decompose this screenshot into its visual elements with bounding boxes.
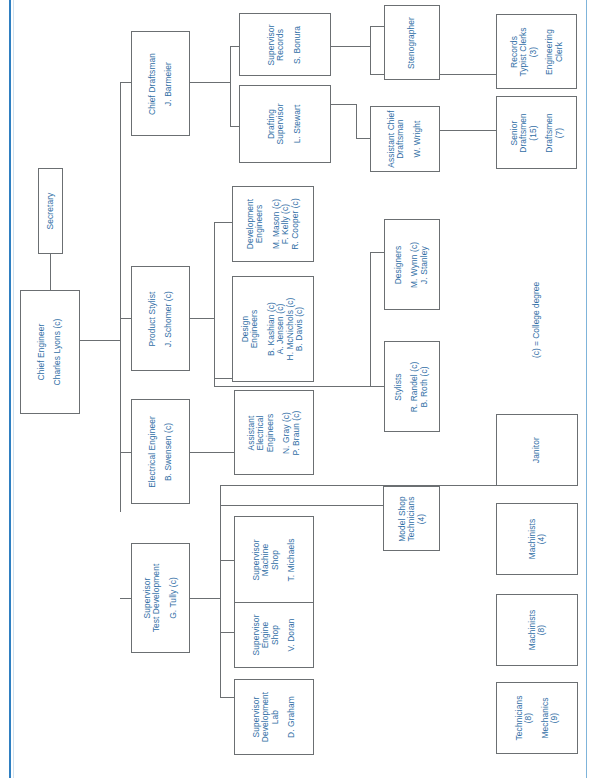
- node-chief-engineer-text: Chief Engineer Charles Lyons (c): [37, 318, 63, 385]
- node-chief-engineer[interactable]: Chief Engineer Charles Lyons (c): [20, 290, 80, 414]
- connector-td-development-lab: [220, 697, 234, 698]
- node-designers-text: Designers M. Wynn (c)J. Stanley: [394, 241, 429, 287]
- node-design-engineers-text: DesignEngineers B. Kashian (c)A. Jensen …: [241, 297, 304, 360]
- spine-product-stylist-right: [214, 378, 215, 386]
- node-designers[interactable]: Designers M. Wynn (c)J. Stanley: [384, 219, 440, 310]
- node-assistant-chief-draftsman[interactable]: Assistant ChiefDraftsman W. Wright: [370, 106, 440, 172]
- connector-electrical-engineer-out: [190, 452, 234, 453]
- node-designers-title: Designers: [394, 241, 403, 287]
- node-supervisor-development-lab[interactable]: SupervisorDevelopmentLab D. Graham: [234, 679, 314, 755]
- node-supervisor-development-lab-text: SupervisorDevelopmentLab D. Graham: [252, 692, 297, 742]
- connector-ps-design-engineers: [214, 378, 232, 379]
- node-supervisor-records[interactable]: SupervisorRecords S. Bonura: [239, 13, 331, 76]
- node-product-stylist-text: Product Stylist J. Schomer (c): [148, 291, 174, 347]
- node-electrical-engineer[interactable]: Electrical Engineer B. Swensen (c): [131, 399, 190, 504]
- node-machinists-4-title: Machinists(4): [528, 519, 547, 560]
- node-supervisor-machine-shop-title: SupervisorMachineShop: [252, 539, 280, 582]
- spine-product-stylist-left: [214, 222, 215, 378]
- node-supervisor-test-development-text: SupervisorTest Development G. Tully (c): [143, 564, 178, 633]
- connector-product-stylist-out-left: [190, 318, 214, 319]
- spine-drafting-supervisor: [356, 104, 357, 138]
- connector-ds-senior-draftsmen: [440, 130, 496, 131]
- node-records-typist-clerks-text: RecordsTypist Clerks(3) EngineeringClerk: [509, 27, 563, 76]
- node-machinists-4[interactable]: Machinists(4): [496, 503, 578, 575]
- node-supervisor-engine-shop-text: SupervisorEngineShop V. Doran: [252, 614, 297, 655]
- node-assistant-electrical-engineers-title: AssistantElectricalEngineers: [247, 410, 275, 455]
- node-machinists-8[interactable]: Machinists(8): [496, 594, 578, 666]
- node-development-engineers-people: M. Mason (c)F. Kelly (c)R. Cooper (c): [272, 198, 300, 250]
- connector-ps-stylists: [370, 386, 384, 387]
- node-product-stylist-title: Product Stylist: [148, 291, 157, 347]
- node-stylists-people: R. Randel (c)B. Roth (c): [411, 361, 430, 412]
- connector-chief-engineer-secretary: [50, 254, 51, 290]
- node-model-shop-technicians-text: Model ShopTechnicians(4): [397, 496, 425, 542]
- node-supervisor-machine-shop-people: T. Michaels: [287, 539, 296, 582]
- node-supervisor-records-text: SupervisorRecords S. Bonura: [267, 24, 302, 65]
- node-senior-draftsmen-people: Draftsmen(7): [545, 113, 564, 153]
- node-assistant-chief-draftsman-people: W. Wright: [413, 110, 422, 167]
- node-supervisor-test-development-title: SupervisorTest Development: [143, 564, 162, 633]
- node-supervisor-engine-shop[interactable]: SupervisorEngineShop V. Doran: [234, 602, 314, 668]
- node-model-shop-technicians[interactable]: Model ShopTechnicians(4): [383, 486, 440, 551]
- node-records-typist-clerks-people: EngineeringClerk: [545, 27, 564, 76]
- node-electrical-engineer-title: Electrical Engineer: [148, 416, 157, 488]
- node-janitor-text: Janitor: [532, 437, 541, 463]
- node-chief-draftsman-title: Chief Draftsman: [148, 52, 157, 114]
- node-electrical-engineer-people: B. Swensen (c): [164, 416, 173, 488]
- connector-supervisor-records-out: [330, 46, 370, 47]
- connector-td-model-shop: [220, 505, 383, 506]
- node-machinists-8-text: Machinists(8): [528, 610, 547, 651]
- node-supervisor-machine-shop[interactable]: SupervisorMachineShop T. Michaels: [234, 516, 314, 604]
- node-assistant-electrical-engineers-people: N. Gray (c)P. Braun (c): [282, 410, 301, 455]
- node-model-shop-technicians-title: Model ShopTechnicians(4): [397, 496, 425, 542]
- node-development-engineers[interactable]: DevelopmentEngineers M. Mason (c)F. Kell…: [232, 186, 314, 262]
- node-supervisor-records-title: SupervisorRecords: [267, 24, 286, 65]
- node-designers-people: M. Wynn (c)J. Stanley: [411, 241, 430, 287]
- node-technicians-mechanics[interactable]: Technicians(8) Mechanics(9): [496, 682, 578, 754]
- node-stenographer[interactable]: Stenographer: [384, 5, 440, 80]
- node-drafting-supervisor[interactable]: DraftingSupervisor L. Stewart: [239, 85, 331, 163]
- node-stylists[interactable]: Stylists R. Randel (c)B. Roth (c): [384, 341, 440, 432]
- connector-td-machine-shop: [220, 560, 234, 561]
- node-supervisor-test-development[interactable]: SupervisorTest Development G. Tully (c): [131, 543, 190, 653]
- node-secretary[interactable]: Secretary: [38, 168, 63, 254]
- node-supervisor-records-people: S. Bonura: [293, 24, 302, 65]
- spine-chief-engineer: [120, 82, 121, 512]
- node-senior-draftsmen[interactable]: SeniorDraftsmen(15) Draftsmen(7): [496, 96, 577, 169]
- connector-td-engine-shop: [220, 632, 234, 633]
- node-assistant-chief-draftsman-title: Assistant ChiefDraftsman: [387, 110, 406, 167]
- node-assistant-electrical-engineers-text: AssistantElectricalEngineers N. Gray (c)…: [247, 410, 301, 455]
- node-janitor-title: Janitor: [532, 437, 541, 463]
- node-development-engineers-title: DevelopmentEngineers: [246, 198, 265, 250]
- spine-supervisor-records: [370, 26, 371, 74]
- node-stenographer-title: Stenographer: [407, 17, 416, 69]
- node-development-engineers-text: DevelopmentEngineers M. Mason (c)F. Kell…: [246, 198, 300, 250]
- node-electrical-engineer-text: Electrical Engineer B. Swensen (c): [148, 416, 174, 488]
- node-supervisor-development-lab-people: D. Graham: [287, 692, 296, 742]
- node-stylists-text: Stylists R. Randel (c)B. Roth (c): [394, 361, 429, 412]
- node-chief-draftsman[interactable]: Chief Draftsman J. Barmeier: [131, 31, 190, 136]
- node-design-engineers-people: B. Kashian (c)A. Jensen (c)H. McNichols …: [267, 297, 305, 360]
- node-assistant-electrical-engineers[interactable]: AssistantElectricalEngineers N. Gray (c)…: [234, 390, 314, 475]
- node-design-engineers-title: DesignEngineers: [241, 297, 260, 360]
- connector-chief-draftsman-out: [190, 82, 230, 83]
- node-design-engineers[interactable]: DesignEngineers B. Kashian (c)A. Jensen …: [232, 276, 314, 382]
- node-product-stylist[interactable]: Product Stylist J. Schomer (c): [131, 266, 190, 371]
- node-records-typist-clerks[interactable]: RecordsTypist Clerks(3) EngineeringClerk: [496, 14, 577, 89]
- node-drafting-supervisor-text: DraftingSupervisor L. Stewart: [267, 103, 302, 144]
- connector-sr-stenographer: [370, 26, 384, 27]
- node-chief-draftsman-people: J. Barmeier: [164, 52, 173, 114]
- connector-test-dev-out: [190, 598, 220, 599]
- node-janitor[interactable]: Janitor: [496, 414, 578, 486]
- node-supervisor-machine-shop-text: SupervisorMachineShop T. Michaels: [252, 539, 297, 582]
- spine-designers-stylists: [370, 252, 371, 386]
- legend-college-degree: (c) = College degree: [531, 282, 541, 358]
- node-product-stylist-people: J. Schomer (c): [164, 291, 173, 347]
- connector-ps-designers: [370, 252, 384, 253]
- connector-td-janitor: [220, 485, 496, 486]
- node-senior-draftsmen-text: SeniorDraftsmen(15) Draftsmen(7): [509, 113, 563, 153]
- connector-ds-asst-chief: [356, 138, 370, 139]
- node-drafting-supervisor-people: L. Stewart: [293, 103, 302, 144]
- org-chart-canvas: Chief Engineer Charles Lyons (c) Secreta…: [0, 0, 605, 778]
- node-assistant-chief-draftsman-text: Assistant ChiefDraftsman W. Wright: [387, 110, 422, 167]
